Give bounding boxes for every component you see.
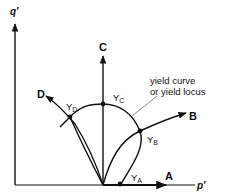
point-yb xyxy=(138,129,143,134)
label-a: A xyxy=(165,170,173,182)
point-yc xyxy=(101,102,106,107)
point-yd xyxy=(68,115,73,120)
label-c: C xyxy=(99,41,107,53)
label-ya: YA xyxy=(131,172,142,184)
p-axis-label: p′ xyxy=(196,180,206,191)
label-b: B xyxy=(189,110,197,122)
point-ya xyxy=(118,182,123,187)
path-b xyxy=(103,113,186,185)
yield-locus-diagram: q′ p′ A B C D YA YB YC YD yield curve or… xyxy=(0,0,225,196)
label-yc: YC xyxy=(113,92,124,104)
q-axis-label: q′ xyxy=(10,6,19,17)
annotation-line1: yield curve xyxy=(150,75,195,86)
label-yd: YD xyxy=(66,101,77,113)
annotation-line2: or yield locus xyxy=(150,86,206,97)
label-d: D xyxy=(37,88,45,100)
annotation-leader xyxy=(132,96,157,116)
label-yb: YB xyxy=(147,134,158,146)
